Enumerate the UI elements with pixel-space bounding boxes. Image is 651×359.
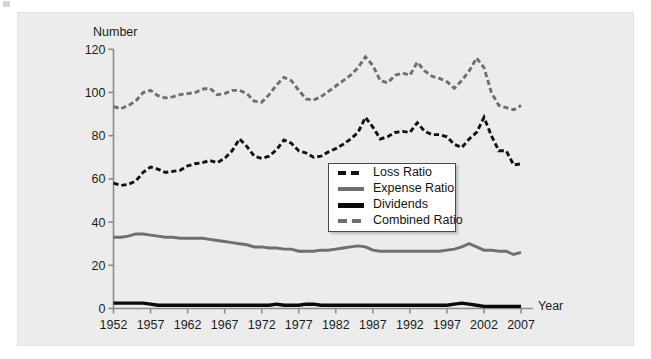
legend-label: Combined Ratio [373, 212, 463, 228]
solid-line-icon [336, 183, 366, 194]
tick-labels-layer: 0204060801001201952195719621967197219771… [85, 43, 535, 332]
y-tick-label: 100 [85, 86, 106, 100]
legend-item-expense-ratio: Expense Ratio [329, 180, 455, 196]
x-tick-label: 1972 [248, 318, 276, 332]
x-tick-label: 2007 [507, 318, 535, 332]
y-tick-label: 60 [92, 172, 106, 186]
x-tick-label: 1957 [137, 318, 165, 332]
legend-item-loss-ratio: Loss Ratio [329, 164, 455, 180]
series-line [114, 234, 522, 255]
legend-item-combined-ratio: Combined Ratio [329, 212, 455, 228]
solid-line-icon [336, 199, 366, 210]
y-axis-title: Number [93, 25, 137, 39]
series-line [114, 303, 522, 306]
x-tick-label: 1977 [285, 318, 313, 332]
y-tick-label: 40 [92, 216, 106, 230]
x-tick-label: 1952 [100, 318, 128, 332]
chart-figure: 0204060801001201952195719621967197219771… [0, 0, 651, 359]
series-line [114, 57, 522, 110]
series-line [114, 117, 522, 185]
legend-label: Expense Ratio [373, 180, 454, 196]
x-tick-label: 1982 [322, 318, 350, 332]
x-tick-label: 1992 [396, 318, 424, 332]
chart-legend: Loss Ratio Expense Ratio Dividends Combi… [328, 163, 456, 232]
axes-layer [109, 49, 533, 313]
legend-label: Dividends [373, 196, 428, 212]
series-layer [114, 57, 522, 306]
y-tick-label: 0 [99, 302, 106, 316]
x-tick-label: 1997 [433, 318, 461, 332]
x-axis-title: Year [538, 299, 563, 313]
y-tick-label: 80 [92, 129, 106, 143]
x-tick-label: 2002 [470, 318, 498, 332]
x-tick-label: 1967 [211, 318, 239, 332]
y-tick-label: 20 [92, 259, 106, 273]
x-tick-label: 1987 [359, 318, 387, 332]
dashed-line-icon [336, 167, 366, 178]
y-tick-label: 120 [85, 43, 106, 57]
dashed-line-icon [336, 215, 366, 226]
chart-plot-area: 0204060801001201952195719621967197219771… [0, 0, 651, 359]
legend-label: Loss Ratio [373, 164, 432, 180]
legend-item-dividends: Dividends [329, 196, 455, 212]
x-tick-label: 1962 [174, 318, 202, 332]
